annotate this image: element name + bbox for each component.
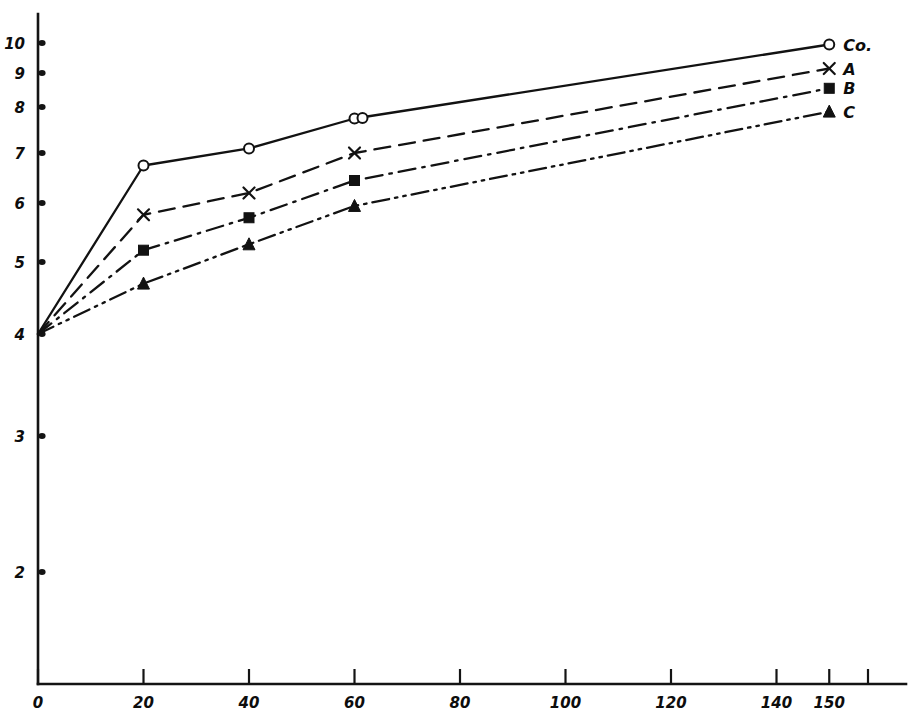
series-label-c: C xyxy=(843,103,855,122)
y-tick-label: 2 xyxy=(15,564,25,582)
series-line-b xyxy=(38,88,829,334)
y-tick-mark xyxy=(38,150,45,156)
marker-co-open-circle-icon xyxy=(358,113,368,123)
x-tick-label: 80 xyxy=(450,694,471,712)
series-line-c xyxy=(38,112,829,334)
y-tick-label: 3 xyxy=(15,428,25,446)
y-tick-label: 4 xyxy=(14,326,25,344)
chart-figure: 020406080100120140150 2345678910 Co.ABC xyxy=(0,0,908,716)
marker-b-filled-square-icon xyxy=(824,83,834,93)
x-tick-label: 150 xyxy=(814,694,845,712)
marker-c-filled-triangle-icon xyxy=(823,105,835,117)
series-label-co: Co. xyxy=(843,36,872,55)
y-tick-mark xyxy=(38,40,45,46)
data-markers xyxy=(138,40,836,290)
series-label-a: A xyxy=(841,60,855,79)
data-series xyxy=(38,45,829,335)
marker-co-open-circle-icon xyxy=(244,143,254,153)
y-tick-label: 6 xyxy=(15,195,25,213)
y-tick-label: 7 xyxy=(15,145,26,163)
series-label-b: B xyxy=(843,79,855,98)
marker-b-filled-square-icon xyxy=(350,176,360,186)
y-tick-mark xyxy=(38,70,45,76)
x-tick-label: 140 xyxy=(761,694,792,712)
x-tick-label: 0 xyxy=(33,694,43,712)
axes xyxy=(38,14,906,684)
marker-co-open-circle-icon xyxy=(824,40,834,50)
series-labels: Co.ABC xyxy=(841,36,872,122)
y-tick-label: 8 xyxy=(15,99,25,117)
x-tick-label: 100 xyxy=(550,694,581,712)
marker-co-open-circle-icon xyxy=(139,161,149,171)
y-tick-label: 9 xyxy=(15,65,25,83)
marker-b-filled-square-icon xyxy=(139,245,149,255)
x-tick-label: 60 xyxy=(344,694,365,712)
y-tick-mark xyxy=(38,569,45,575)
y-tick-mark xyxy=(38,104,45,110)
chart-canvas: 020406080100120140150 2345678910 Co.ABC xyxy=(0,0,908,716)
x-axis-ticks: 020406080100120140150 xyxy=(33,669,868,712)
x-tick-label: 20 xyxy=(133,694,154,712)
y-tick-label: 10 xyxy=(4,35,25,53)
y-tick-label: 5 xyxy=(15,254,25,272)
x-tick-label: 40 xyxy=(238,694,260,712)
series-line-a xyxy=(38,69,829,335)
marker-b-filled-square-icon xyxy=(244,213,254,223)
y-tick-mark xyxy=(38,259,45,265)
x-tick-label: 120 xyxy=(655,694,686,712)
y-tick-mark xyxy=(38,200,45,206)
y-axis-ticks: 2345678910 xyxy=(4,35,45,582)
y-tick-mark xyxy=(38,433,45,439)
